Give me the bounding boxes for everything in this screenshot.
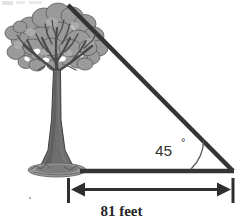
diagram-canvas: 45 ° 81 feet: [0, 0, 243, 220]
dimension-label-text: 81 feet: [100, 203, 142, 219]
tree-shadow-diagram: 45 ° 81 feet: [0, 0, 243, 220]
scan-speck: [29, 197, 31, 199]
angle-value-text: 45: [155, 142, 172, 159]
degree-symbol-icon: °: [181, 136, 185, 148]
tree-root-mound: [28, 163, 86, 177]
